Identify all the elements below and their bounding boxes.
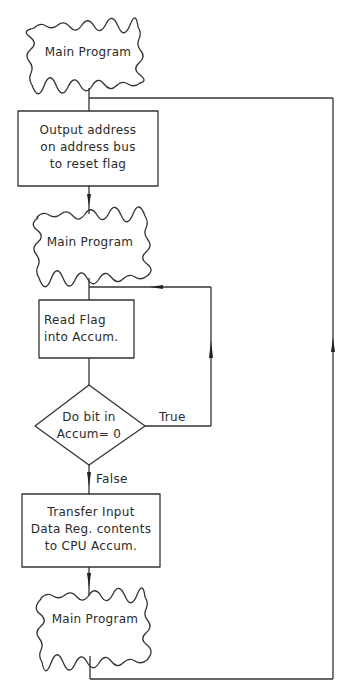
main-program-label-1: Main Program xyxy=(38,44,138,61)
main-program-label-2: Main Program xyxy=(40,234,140,251)
false-edge-label: False xyxy=(96,471,128,488)
true-edge-label: True xyxy=(159,409,186,426)
transfer-label: Transfer Input Data Reg. contents to CPU… xyxy=(22,504,160,555)
output-address-label: Output address on address bus to reset f… xyxy=(18,122,158,173)
arrow-left-icon xyxy=(150,285,163,289)
arrow-down-icon xyxy=(87,573,91,588)
arrow-up-icon xyxy=(209,340,213,358)
read-flag-label: Read Flag into Accum. xyxy=(44,312,119,346)
connector-lines xyxy=(89,88,333,679)
main-program-terminal-3 xyxy=(36,588,151,671)
arrow-down-icon xyxy=(87,194,91,206)
flowchart-canvas xyxy=(0,0,350,695)
main-program-label-3: Main Program xyxy=(45,611,145,628)
decision-label: Do bit in Accum= 0 xyxy=(49,409,129,443)
arrow-up-icon xyxy=(331,337,335,352)
arrow-down-icon xyxy=(87,472,91,487)
